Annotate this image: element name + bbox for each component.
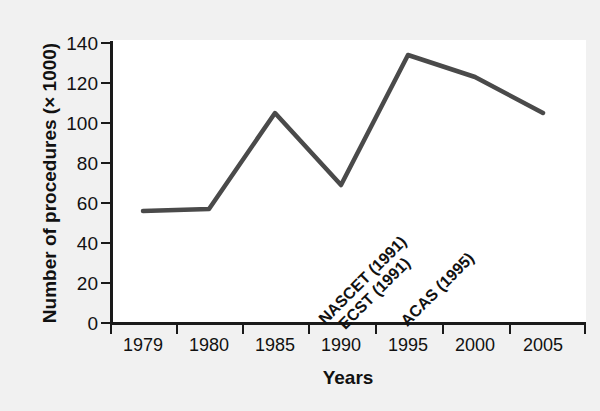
x-tick-label: 1985 — [240, 336, 310, 354]
x-tick-mark — [110, 325, 112, 334]
x-tick-mark — [509, 325, 511, 334]
x-tick-mark — [308, 325, 310, 334]
y-tick-mark — [101, 162, 110, 164]
x-tick-mark — [584, 325, 586, 334]
x-tick-label: 1979 — [108, 336, 178, 354]
x-tick-mark — [375, 325, 377, 334]
x-tick-label: 1995 — [373, 336, 443, 354]
y-tick-mark — [101, 242, 110, 244]
y-tick-mark — [101, 122, 110, 124]
y-tick-mark — [101, 322, 110, 324]
y-tick-mark — [101, 42, 110, 44]
chart-figure: 140 120 100 80 60 40 20 0 1979 1980 1985… — [0, 0, 600, 411]
y-tick-mark — [101, 282, 110, 284]
x-tick-mark — [242, 325, 244, 334]
y-axis-title: Number of procedures (× 1000) — [39, 23, 61, 343]
x-tick-mark — [442, 325, 444, 334]
x-axis-title: Years — [110, 367, 586, 389]
x-tick-label: 1990 — [306, 336, 376, 354]
x-tick-label: 2005 — [508, 336, 578, 354]
x-tick-mark — [176, 325, 178, 334]
x-tick-label: 1980 — [174, 336, 244, 354]
x-tick-label: 2000 — [440, 336, 510, 354]
y-axis-line — [110, 41, 113, 324]
y-tick-mark — [101, 82, 110, 84]
y-tick-mark — [101, 202, 110, 204]
